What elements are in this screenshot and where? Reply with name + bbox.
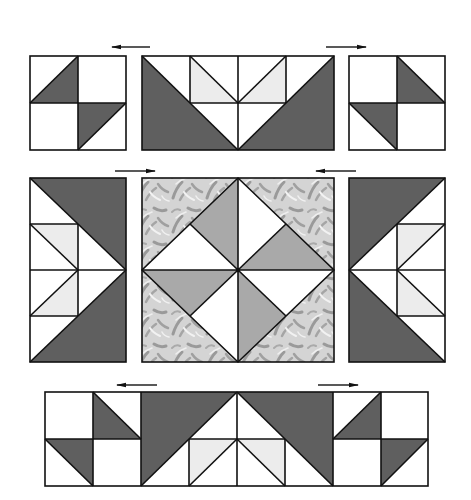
- right-flying-geese-unit: [349, 178, 445, 362]
- left-flying-geese-unit: [30, 178, 126, 362]
- center-square-in-square: [142, 178, 334, 362]
- top-flying-geese-unit: [142, 56, 334, 150]
- top-right-four-patch: [349, 56, 445, 150]
- top-left-four-patch: [30, 56, 126, 150]
- quilt-assembly-diagram: [0, 0, 471, 500]
- bottom-assembled-strip: [45, 392, 428, 486]
